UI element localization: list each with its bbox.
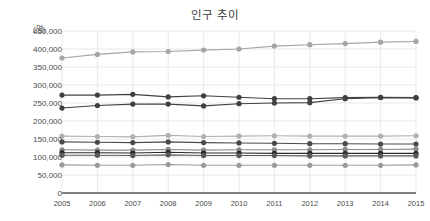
data-point — [343, 163, 348, 168]
data-point — [201, 93, 206, 98]
data-point — [378, 153, 383, 158]
data-point — [378, 40, 383, 45]
data-point — [166, 152, 171, 157]
data-point — [95, 103, 100, 108]
data-point — [130, 153, 135, 158]
data-point — [413, 162, 418, 167]
data-point — [236, 46, 241, 51]
data-point — [201, 140, 206, 145]
data-point — [413, 153, 418, 158]
data-point — [307, 100, 312, 105]
series-4 — [59, 133, 418, 140]
data-point — [59, 105, 64, 110]
data-point — [272, 44, 277, 49]
population-trend-chart: 인구 추이 (명) 050,000100,000150,000200,00025… — [0, 0, 430, 221]
data-point — [59, 55, 64, 60]
series-5 — [59, 139, 418, 146]
data-point — [343, 153, 348, 158]
data-point — [95, 92, 100, 97]
gridlines — [62, 31, 416, 193]
data-point — [130, 163, 135, 168]
data-point — [201, 153, 206, 158]
data-point — [343, 141, 348, 146]
data-point — [166, 133, 171, 138]
data-point — [413, 95, 418, 100]
data-point — [272, 141, 277, 146]
data-point — [272, 153, 277, 158]
data-point — [272, 133, 277, 138]
data-point — [201, 163, 206, 168]
data-point — [95, 52, 100, 57]
data-point — [307, 134, 312, 139]
plot-svg — [0, 0, 430, 221]
data-point — [378, 163, 383, 168]
data-point — [59, 134, 64, 139]
data-point — [95, 153, 100, 158]
data-point — [413, 141, 418, 146]
data-point — [95, 134, 100, 139]
data-point — [272, 100, 277, 105]
data-point — [378, 95, 383, 100]
data-point — [130, 140, 135, 145]
data-point — [59, 153, 64, 158]
data-point — [201, 47, 206, 52]
data-point — [201, 103, 206, 108]
data-point — [236, 163, 241, 168]
data-point — [201, 134, 206, 139]
data-point — [413, 133, 418, 138]
data-point — [307, 163, 312, 168]
data-point — [343, 41, 348, 46]
data-point — [59, 139, 64, 144]
data-point — [272, 163, 277, 168]
data-point — [166, 49, 171, 54]
data-point — [166, 94, 171, 99]
data-point — [130, 101, 135, 106]
data-point — [236, 134, 241, 139]
data-point — [413, 39, 418, 44]
data-point — [307, 42, 312, 47]
data-point — [236, 140, 241, 145]
data-point — [236, 153, 241, 158]
data-point — [378, 134, 383, 139]
data-point — [236, 101, 241, 106]
data-point — [166, 101, 171, 106]
data-point — [166, 162, 171, 167]
data-point — [130, 92, 135, 97]
data-point — [378, 141, 383, 146]
data-point — [343, 96, 348, 101]
series-9 — [59, 162, 418, 168]
data-point — [166, 139, 171, 144]
data-point — [59, 162, 64, 167]
data-point — [95, 140, 100, 145]
data-point — [307, 153, 312, 158]
data-point — [59, 92, 64, 97]
data-point — [95, 163, 100, 168]
plot-area: 050,000100,000150,000200,000250,000300,0… — [0, 0, 430, 221]
data-point — [130, 49, 135, 54]
data-point — [130, 134, 135, 139]
data-point — [236, 95, 241, 100]
data-point — [343, 134, 348, 139]
data-point — [307, 141, 312, 146]
